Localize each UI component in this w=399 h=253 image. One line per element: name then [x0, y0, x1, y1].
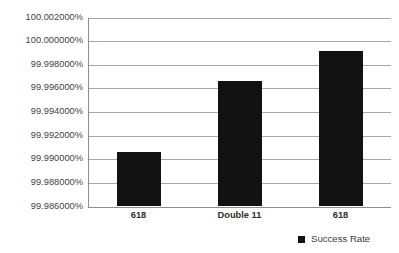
y-axis-tick-label: 99.996000% [0, 83, 83, 92]
legend: Success Rate [298, 234, 370, 244]
bar [218, 81, 262, 207]
gridline [88, 41, 391, 42]
y-axis-tick-label: 99.992000% [0, 131, 83, 140]
y-axis-line [88, 18, 89, 208]
plot-area [88, 18, 391, 207]
x-axis-line [88, 207, 391, 208]
bar-chart: 100.002000%100.000000%99.998000%99.99600… [0, 0, 399, 253]
y-axis-tick-label: 99.988000% [0, 178, 83, 187]
x-axis-category-label: 618 [281, 210, 399, 220]
y-axis-tick-label: 99.994000% [0, 107, 83, 116]
y-axis-tick-label: 99.998000% [0, 60, 83, 69]
gridline [88, 18, 391, 19]
bar [319, 51, 363, 207]
legend-label-success-rate: Success Rate [311, 234, 370, 244]
y-axis-tick-label: 99.986000% [0, 202, 83, 211]
y-axis-tick-label: 100.002000% [0, 13, 83, 22]
y-axis-tick-label: 99.990000% [0, 154, 83, 163]
legend-swatch-success-rate [298, 236, 305, 243]
y-axis-tick-label: 100.000000% [0, 36, 83, 45]
bar [117, 152, 161, 207]
